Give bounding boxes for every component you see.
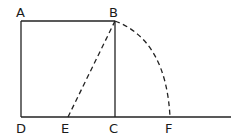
dashed-segment-EB: [68, 21, 115, 117]
label-C: C: [109, 121, 118, 136]
dashed-arc-BF: [115, 21, 170, 117]
label-A: A: [16, 5, 25, 20]
label-F: F: [165, 121, 172, 136]
label-E: E: [61, 121, 69, 136]
label-B: B: [109, 5, 118, 20]
label-D: D: [16, 121, 26, 136]
geometry-diagram: A B D E C F: [0, 0, 243, 137]
